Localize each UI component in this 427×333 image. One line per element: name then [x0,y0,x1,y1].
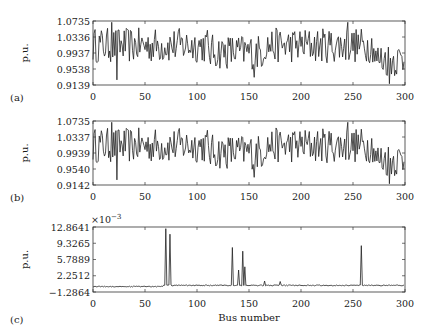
y-tick-label: 1.0735 [57,16,90,27]
x-tick-label: 100 [188,191,206,202]
y-tick-label: 5.7889 [57,254,90,265]
data-line [93,22,404,83]
x-tick-label: 100 [188,298,206,309]
x-tick-label: 150 [240,191,258,202]
x-tick-label: 50 [139,91,151,102]
x-tick-label: 250 [344,91,362,102]
x-tick-label: 250 [344,298,362,309]
panel-c: 050100150200250300−1.28642.25125.78899.3… [10,213,414,325]
panel-label: (a) [10,92,24,103]
y-scale-annotation: ×10−3 [91,213,121,225]
y-tick-label: 0.9937 [57,48,90,59]
x-tick-label: 50 [139,298,151,309]
y-tick-label: 0.9939 [57,148,90,159]
x-tick-label: 250 [344,191,362,202]
panel-label: (c) [10,314,24,325]
y-tick-label: 1.0735 [57,116,90,127]
y-tick-label: 2.2512 [57,270,90,281]
panel-label: (b) [10,192,24,203]
y-tick-label: −1.2864 [49,287,90,298]
y-tick-label: 9.3265 [57,238,90,249]
y-tick-label: 0.9538 [57,64,90,75]
y-tick-label: 0.9540 [57,164,90,175]
x-tick-label: 0 [90,191,96,202]
data-line [93,122,404,183]
x-tick-label: 300 [396,298,414,309]
figure: 0501001502002503000.91390.95380.99371.03… [0,0,427,333]
y-tick-label: 1.0336 [57,32,90,43]
plot-frame [93,227,405,292]
y-axis-label: p.u. [19,250,30,269]
x-tick-label: 150 [240,298,258,309]
data-line [93,229,404,287]
x-tick-label: 200 [292,191,310,202]
panel-b: 0501001502002503000.91420.95400.99391.03… [10,116,414,204]
x-tick-label: 0 [90,91,96,102]
y-tick-label: 0.9142 [57,180,90,191]
y-tick-label: 12.8641 [51,222,90,233]
x-tick-label: 200 [292,298,310,309]
x-tick-label: 300 [396,191,414,202]
panel-a: 0501001502002503000.91390.95380.99371.03… [10,16,414,104]
x-tick-label: 150 [240,91,258,102]
y-axis-label: p.u. [19,43,30,62]
y-tick-label: 1.0337 [57,132,90,143]
x-tick-label: 200 [292,91,310,102]
x-axis-label: Bus number [218,312,280,323]
x-tick-label: 50 [139,191,151,202]
x-tick-label: 100 [188,91,206,102]
y-tick-label: 0.9139 [57,80,90,91]
y-axis-label: p.u. [19,143,30,162]
x-tick-label: 300 [396,91,414,102]
x-tick-label: 0 [90,298,96,309]
